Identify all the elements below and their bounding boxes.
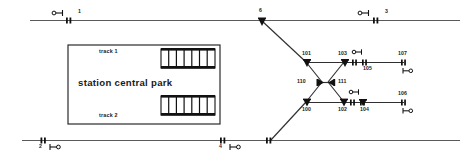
switch-label-101[interactable]: 101 [302,51,311,56]
switch-label-111[interactable]: 111 [338,79,347,84]
signal-label-1[interactable]: 1 [78,9,81,14]
track-schematic-svg [0,0,460,156]
switch-label-103[interactable]: 103 [338,51,347,56]
railway-diagram-canvas: station central park track 1 track 2 1 3… [0,0,460,156]
platform-ladder-track-1 [161,48,215,69]
switch-label-100[interactable]: 100 [302,107,311,112]
signal-label-4[interactable]: 4 [219,144,222,149]
signal-label-107[interactable]: 107 [398,51,407,56]
signal-label-106: 106 [398,91,407,96]
signal-label-2[interactable]: 2 [39,144,42,149]
signal-label-105[interactable]: 105 [363,66,372,71]
track-2-label: track 2 [99,113,118,118]
station-title: station central park [78,78,173,88]
signal-label-3[interactable]: 3 [385,9,388,14]
track-1-label: track 1 [99,49,118,54]
switch-label-110[interactable]: 110 [297,79,306,84]
platform-ladder-track-2 [161,95,215,116]
switch-label-6[interactable]: 6 [259,8,262,13]
switch-label-102[interactable]: 102 [338,107,347,112]
switch-label-104[interactable]: 104 [360,107,369,112]
